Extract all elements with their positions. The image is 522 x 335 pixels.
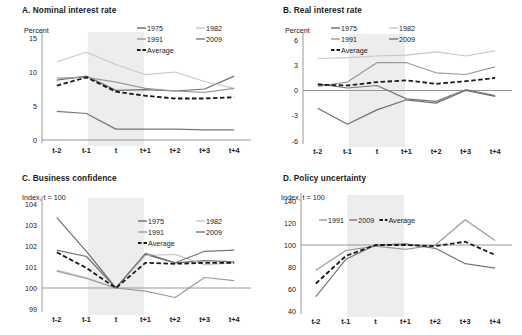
x-tick-label: t+2 xyxy=(430,317,441,326)
legend-label-2009: 2009 xyxy=(206,228,222,237)
y-tick-label: 3 xyxy=(294,61,298,70)
series-line-average xyxy=(318,78,495,86)
series-line-1991 xyxy=(318,63,495,87)
x-tick-label: t+3 xyxy=(199,315,210,324)
y-tick-label: 0 xyxy=(294,86,298,95)
x-tick-label: t-1 xyxy=(343,147,352,156)
y-tick-label: 101 xyxy=(25,263,37,272)
legend-label-2009: 2009 xyxy=(358,216,374,225)
x-tick-label: t-2 xyxy=(52,315,61,324)
x-tick-label: t xyxy=(376,147,379,156)
x-tick-label: t+4 xyxy=(490,317,502,326)
x-tick-label: t+1 xyxy=(140,146,151,155)
x-tick-label: t+3 xyxy=(199,146,210,155)
y-tick-label: 104 xyxy=(25,200,37,209)
panel-c-plot: 99100101102103104t-2t-1tt+1t+2t+3t+41975… xyxy=(0,168,261,335)
y-tick-label: 140 xyxy=(284,197,296,206)
recession-shading xyxy=(88,198,144,315)
series-line-2009 xyxy=(57,111,234,129)
x-tick-label: t+2 xyxy=(431,147,442,156)
y-tick-label: 60 xyxy=(288,285,296,294)
y-tick-label: 15 xyxy=(29,34,37,43)
legend-label-1982: 1982 xyxy=(399,24,415,33)
x-tick-label: t xyxy=(115,315,118,324)
y-tick-label: -6 xyxy=(292,137,298,146)
x-tick-label: t+1 xyxy=(401,147,412,156)
x-tick-label: t+1 xyxy=(400,317,411,326)
series-line-1982 xyxy=(57,254,234,288)
y-tick-label: 120 xyxy=(284,219,296,228)
legend-label-1982: 1982 xyxy=(206,217,222,226)
legend-label-1991: 1991 xyxy=(328,216,344,225)
legend-label-1975: 1975 xyxy=(341,24,357,33)
legend-label-average: Average xyxy=(341,46,368,55)
x-tick-label: t+3 xyxy=(460,147,471,156)
y-tick-label: 6 xyxy=(294,36,298,45)
legend-label-1991: 1991 xyxy=(341,35,357,44)
x-tick-label: t-2 xyxy=(52,146,61,155)
x-tick-label: t+4 xyxy=(229,146,241,155)
y-tick-label: 100 xyxy=(284,241,296,250)
series-line-average xyxy=(57,252,234,288)
y-tick-label: 103 xyxy=(25,221,37,230)
y-tick-label: 10 xyxy=(29,68,37,77)
legend-label-1982: 1982 xyxy=(206,24,222,33)
x-tick-label: t+4 xyxy=(229,315,241,324)
y-tick-label: 40 xyxy=(288,307,296,316)
panel-b-plot: -6-3036t-2t-1tt+1t+2t+3t+419751982199120… xyxy=(261,0,522,168)
panel-d-plot: 406080100120140t-2t-1tt+1t+2t+3t+4199120… xyxy=(261,168,522,335)
x-tick-label: t xyxy=(374,317,377,326)
series-line-1991 xyxy=(57,271,234,297)
panel-b-real-interest-rate: B. Real interest rate Percent -6-3036t-2… xyxy=(261,0,522,168)
legend-label-2009: 2009 xyxy=(206,35,222,44)
y-tick-label: 99 xyxy=(29,305,37,314)
legend-label-2009: 2009 xyxy=(399,35,415,44)
x-tick-label: t+3 xyxy=(460,317,471,326)
y-tick-label: 5 xyxy=(33,102,37,111)
y-tick-label: 102 xyxy=(25,242,37,251)
x-tick-label: t+1 xyxy=(140,315,151,324)
panel-a-nominal-interest-rate: A. Nominal interest rate Percent 051015t… xyxy=(0,0,261,168)
legend-label-1975: 1975 xyxy=(147,24,163,33)
x-tick-label: t+2 xyxy=(170,146,181,155)
y-tick-label: 80 xyxy=(288,263,296,272)
legend-label-average: Average xyxy=(148,239,175,248)
x-tick-label: t xyxy=(115,146,118,155)
x-tick-label: t-2 xyxy=(313,147,322,156)
x-tick-label: t-2 xyxy=(311,317,320,326)
recession-shading xyxy=(347,195,404,317)
legend-label-average: Average xyxy=(147,46,174,55)
series-line-2009 xyxy=(318,84,495,102)
x-tick-label: t-1 xyxy=(341,317,350,326)
y-tick-label: -3 xyxy=(292,111,298,120)
legend-label-average: Average xyxy=(388,216,415,225)
y-tick-label: 100 xyxy=(25,284,37,293)
y-tick-label: 0 xyxy=(33,136,37,145)
x-tick-label: t-1 xyxy=(82,146,91,155)
panel-c-business-confidence: C. Business confidence Index, t = 100 99… xyxy=(0,168,261,335)
x-tick-label: t+2 xyxy=(170,315,181,324)
series-line-1982 xyxy=(57,52,234,88)
legend-label-1991: 1991 xyxy=(148,228,164,237)
panel-a-plot: 051015t-2t-1tt+1t+2t+3t+4197519821991200… xyxy=(0,0,261,168)
x-tick-label: t-1 xyxy=(82,315,91,324)
x-tick-label: t+4 xyxy=(490,147,502,156)
panel-d-policy-uncertainty: D. Policy uncertainty Index, t = 100 406… xyxy=(261,168,522,335)
figure-panel-grid: A. Nominal interest rate Percent 051015t… xyxy=(0,0,522,335)
series-line-1975 xyxy=(318,91,495,125)
legend-label-1975: 1975 xyxy=(148,217,164,226)
legend-label-1991: 1991 xyxy=(147,35,163,44)
